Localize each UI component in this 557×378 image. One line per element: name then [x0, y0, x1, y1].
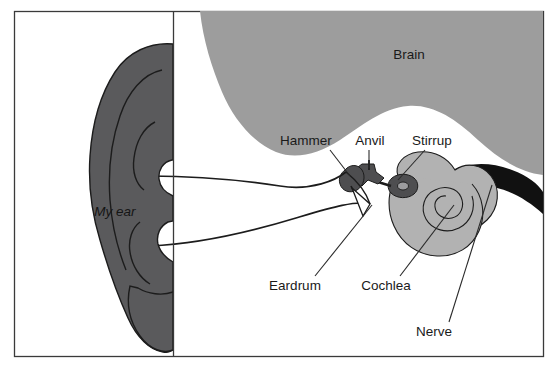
label-hammer: Hammer — [280, 133, 332, 148]
label-stirrup: Stirrup — [412, 133, 452, 148]
label-my-ear: My ear — [94, 204, 136, 219]
label-eardrum: Eardrum — [269, 278, 321, 293]
label-brain: Brain — [393, 47, 425, 62]
label-anvil: Anvil — [355, 133, 384, 148]
label-nerve: Nerve — [416, 324, 452, 339]
ear-anatomy-figure: Brain Hammer Anvil Stirrup My ear Eardru… — [0, 0, 557, 378]
label-cochlea: Cochlea — [361, 278, 411, 293]
